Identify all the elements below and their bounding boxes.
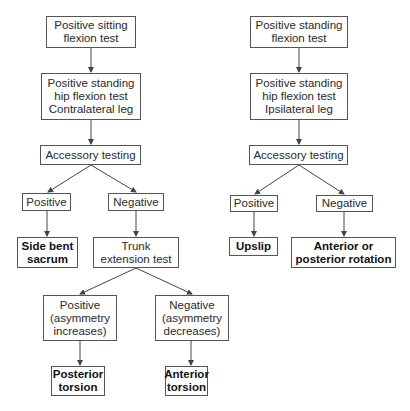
node-positive-right: Positive xyxy=(230,195,278,212)
node-trunk-negative: Negative (asymmetry decreases) xyxy=(155,295,229,341)
node-standing-hip-flexion-ipsilateral: Positive standing hip flexion test Ipsil… xyxy=(250,73,348,120)
node-accessory-testing-left: Accessory testing xyxy=(40,145,141,165)
node-anterior-posterior-rotation: Anterior or posterior rotation xyxy=(291,237,396,268)
node-anterior-torsion: Anterior torsion xyxy=(165,366,208,396)
node-posterior-torsion: Posterior torsion xyxy=(51,366,105,396)
node-upslip: Upslip xyxy=(229,237,278,256)
node-accessory-testing-right: Accessory testing xyxy=(249,145,348,165)
node-trunk-positive: Positive (asymmetry increases) xyxy=(43,295,117,341)
node-positive-standing-flexion-test: Positive standing flexion test xyxy=(250,16,348,48)
node-negative-left: Negative xyxy=(108,193,164,211)
node-side-bent-sacrum: Side bent sacrum xyxy=(17,237,78,268)
node-negative-right: Negative xyxy=(316,195,373,212)
node-positive-left: Positive xyxy=(22,193,71,211)
node-standing-hip-flexion-contralateral: Positive standing hip flexion test Contr… xyxy=(41,73,141,120)
node-trunk-extension-test: Trunk extension test xyxy=(93,237,179,268)
node-positive-sitting-flexion-test: Positive sitting flexion test xyxy=(46,16,136,48)
